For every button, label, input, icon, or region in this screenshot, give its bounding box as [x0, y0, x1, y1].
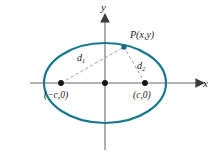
- x-axis-label: x: [203, 78, 208, 89]
- distance-1-segment: [61, 47, 124, 83]
- point-p-label: P(x,y): [130, 30, 154, 40]
- focus-right-label: (c,0): [133, 91, 151, 101]
- ellipse-foci-figure: y x P(x,y) (−c,0) (c,0) d1 d2: [0, 0, 220, 160]
- point-p-dot: [121, 44, 126, 49]
- distance-2-subscript: 2: [142, 65, 145, 72]
- distance-1-label: d1: [77, 53, 85, 64]
- focus-right-dot: [142, 80, 148, 86]
- center-dot: [102, 80, 108, 86]
- figure-canvas: [0, 0, 220, 160]
- distance-1-subscript: 1: [82, 57, 85, 64]
- y-axis-label: y: [101, 2, 106, 13]
- focus-left-label: (−c,0): [44, 91, 68, 101]
- distance-2-label: d2: [137, 61, 145, 72]
- focus-left-dot: [58, 80, 64, 86]
